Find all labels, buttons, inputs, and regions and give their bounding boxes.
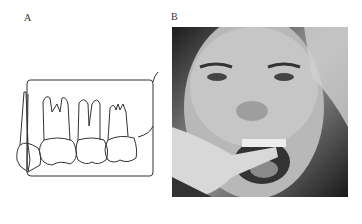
teeth-drawing (0, 0, 170, 224)
panel-label-b: B (171, 11, 178, 22)
patient-photo (172, 27, 348, 197)
photo-illustration (172, 27, 348, 197)
